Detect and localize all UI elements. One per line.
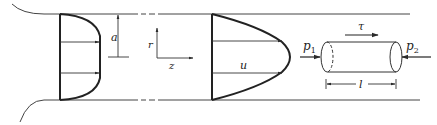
- pressure-in: p1: [300, 39, 320, 57]
- shear-label: τ: [358, 20, 365, 33]
- parabolic-profile-outline: [212, 14, 290, 100]
- r-axis-label: r: [148, 39, 154, 50]
- pressure-out: p2: [402, 39, 431, 57]
- entrance-profile: [60, 14, 100, 100]
- z-axis-label: z: [168, 60, 175, 71]
- pipe-flow-diagram: a r z u p1 p2 τ: [0, 0, 437, 125]
- radius-label: a: [111, 31, 118, 44]
- pressure-out-label: p2: [406, 39, 419, 55]
- length-label: l: [359, 78, 363, 91]
- fluid-element: [321, 42, 402, 72]
- radius-dimension: a: [108, 15, 129, 57]
- coordinate-axes: r z: [148, 28, 193, 71]
- shear-stress: τ: [345, 20, 378, 35]
- entrance-profile-outline: [60, 14, 100, 100]
- velocity-label: u: [240, 59, 247, 72]
- developed-profile: u: [212, 14, 290, 100]
- length-dimension: l: [326, 78, 396, 91]
- pressure-in-label: p1: [303, 39, 316, 55]
- entrance-curve-bottom: [20, 100, 44, 122]
- entrance-curve-top: [12, 4, 44, 14]
